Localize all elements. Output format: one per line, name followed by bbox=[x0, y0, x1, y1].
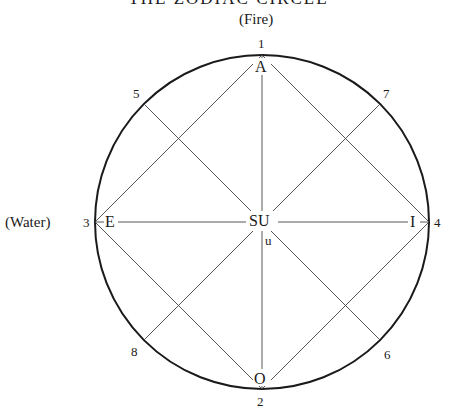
point-7: 7 bbox=[383, 87, 390, 100]
point-2: 2 bbox=[257, 395, 264, 408]
point-6: 6 bbox=[384, 348, 391, 361]
center-u: u bbox=[265, 234, 272, 247]
vowel-a: A bbox=[255, 59, 267, 75]
center-su: SU bbox=[249, 213, 269, 229]
label-water: (Water) bbox=[5, 215, 50, 230]
point-4: 4 bbox=[434, 216, 441, 229]
point-3: 3 bbox=[83, 216, 90, 229]
vowel-e: E bbox=[105, 214, 115, 230]
point-8: 8 bbox=[131, 345, 138, 358]
label-fire: (Fire) bbox=[239, 12, 273, 27]
point-1: 1 bbox=[258, 37, 265, 50]
point-5: 5 bbox=[133, 87, 140, 100]
vowel-o: O bbox=[254, 371, 266, 387]
vowel-i: I bbox=[410, 214, 415, 230]
